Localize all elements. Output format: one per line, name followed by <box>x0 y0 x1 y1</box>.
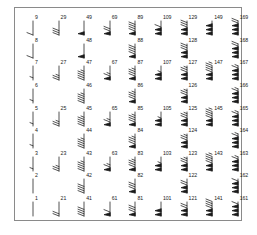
wind-barb-value-label: 83 <box>137 151 143 156</box>
wind-barb-value-label: 122 <box>189 173 197 178</box>
wind-barb-value-label: 3 <box>35 151 38 156</box>
wind-barb-value-label: 49 <box>86 15 92 20</box>
wind-barb-value-label: 61 <box>112 196 118 201</box>
wind-barb-value-label: 29 <box>61 15 67 20</box>
wind-barb-value-label: 4 <box>35 128 38 133</box>
wind-barb-value-label: 9 <box>35 15 38 20</box>
wind-barb-value-label: 8 <box>35 38 38 43</box>
wind-barb-value-label: 169 <box>240 15 248 20</box>
wind-barb-marker: 161 <box>221 193 255 219</box>
wind-barb-value-label: 81 <box>137 196 143 201</box>
wind-barb-value-label: 27 <box>61 60 67 65</box>
wind-barb-value-label: 168 <box>240 38 248 43</box>
wind-barb-value-label: 86 <box>137 83 143 88</box>
wind-barb-value-label: 63 <box>112 151 118 156</box>
wind-barb-value-label: 25 <box>61 106 67 111</box>
wind-barb-value-label: 45 <box>86 106 92 111</box>
wind-barb-value-label: 165 <box>240 106 248 111</box>
wind-barb-value-label: 162 <box>240 173 248 178</box>
wind-barb-value-label: 7 <box>35 60 38 65</box>
wind-barb-value-label: 67 <box>112 60 118 65</box>
wind-barb-value-label: 124 <box>189 128 197 133</box>
wind-barb-value-label: 167 <box>240 60 248 65</box>
wind-barb-value-label: 43 <box>86 151 92 156</box>
wind-barb-value-label: 5 <box>35 106 38 111</box>
wind-barb-value-label: 42 <box>86 173 92 178</box>
wind-barb-value-label: 166 <box>240 83 248 88</box>
wind-barb-value-label: 46 <box>86 83 92 88</box>
plot-frame: 9294969891091291491698488812816872747678… <box>14 7 242 221</box>
wind-barb-value-label: 2 <box>35 173 38 178</box>
wind-barb-value-label: 161 <box>240 196 248 201</box>
wind-barb-value-label: 41 <box>86 196 92 201</box>
wind-barb-value-label: 128 <box>189 38 197 43</box>
wind-barb-value-label: 47 <box>86 60 92 65</box>
wind-barb-value-label: 164 <box>240 128 248 133</box>
wind-barb-value-label: 82 <box>137 173 143 178</box>
wind-barb-value-label: 48 <box>86 38 92 43</box>
wind-barb-value-label: 89 <box>137 15 143 20</box>
wind-barb-value-label: 23 <box>61 151 67 156</box>
wind-barb-value-label: 69 <box>112 15 118 20</box>
wind-barb-value-label: 85 <box>137 106 143 111</box>
wind-barb-value-label: 44 <box>86 128 92 133</box>
wind-barb-value-label: 87 <box>137 60 143 65</box>
wind-barb-value-label: 84 <box>137 128 143 133</box>
wind-barb-value-label: 1 <box>35 196 38 201</box>
wind-barb-value-label: 21 <box>61 196 67 201</box>
wind-barb-value-label: 88 <box>137 38 143 43</box>
wind-barb-layer: 9294969891091291491698488812816872747678… <box>15 8 243 222</box>
wind-barb-value-label: 163 <box>240 151 248 156</box>
wind-barb-value-label: 126 <box>189 83 197 88</box>
wind-barb-value-label: 6 <box>35 83 38 88</box>
wind-barb-value-label: 65 <box>112 106 118 111</box>
